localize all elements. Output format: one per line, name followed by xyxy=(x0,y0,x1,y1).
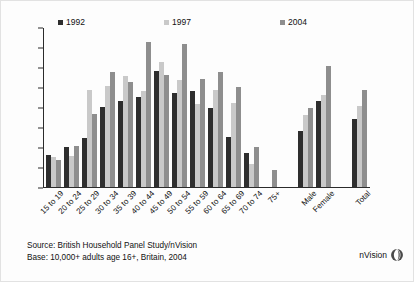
bar-2004 xyxy=(182,44,187,187)
bar-2004 xyxy=(146,42,151,187)
legend-swatch-2004 xyxy=(280,20,285,25)
legend-label-1992: 1992 xyxy=(66,18,85,27)
legend-label-1997: 1997 xyxy=(172,18,191,27)
bar-group xyxy=(243,27,261,187)
bar-group xyxy=(44,27,62,187)
legend-swatch-1997 xyxy=(164,20,169,25)
legend-item-2004: 2004 xyxy=(280,18,307,27)
bar-group xyxy=(188,27,206,187)
x-axis-labels: 15 to 1920 to 2425 to 2930 to 3435 to 39… xyxy=(44,189,374,235)
bar-group-spacer xyxy=(279,27,297,187)
bar-2004 xyxy=(326,66,331,187)
bar-group-spacer xyxy=(333,27,351,187)
plot-area xyxy=(44,28,369,187)
logo-text: nVision xyxy=(359,250,387,260)
bar-group xyxy=(62,27,80,187)
bar-group xyxy=(351,27,369,187)
bar-group xyxy=(297,27,315,187)
bar-2004 xyxy=(362,90,367,187)
bar-group xyxy=(315,27,333,187)
y-axis: 0%1%2%3%4%5%6%7%8% xyxy=(0,28,48,188)
bar-2004 xyxy=(56,160,61,187)
footer-notes: Source: British Household Panel Study/nV… xyxy=(27,240,327,263)
legend-item-1992: 1992 xyxy=(58,18,85,27)
nvision-logo: nVision xyxy=(359,248,404,262)
chart-card: 1992 1997 2004 0%1%2%3%4%5%6%7%8% 15 to … xyxy=(0,0,414,282)
bar-group xyxy=(134,27,152,187)
bar-group xyxy=(170,27,188,187)
bar-group xyxy=(225,27,243,187)
bar-group xyxy=(98,27,116,187)
bar-group xyxy=(116,27,134,187)
x-tick-label: Total xyxy=(366,177,384,195)
base-note: Base: 10,000+ adults age 16+, Britain, 2… xyxy=(27,252,327,264)
legend-label-2004: 2004 xyxy=(288,18,307,27)
legend-item-1997: 1997 xyxy=(164,18,191,27)
nvision-globe-icon xyxy=(390,248,404,262)
source-note: Source: British Household Panel Study/nV… xyxy=(27,240,327,252)
bar-group xyxy=(261,27,279,187)
legend-swatch-1992 xyxy=(58,20,63,25)
bar-2004 xyxy=(308,108,313,187)
bar-group xyxy=(152,27,170,187)
bar-group xyxy=(80,27,98,187)
bar-group xyxy=(207,27,225,187)
